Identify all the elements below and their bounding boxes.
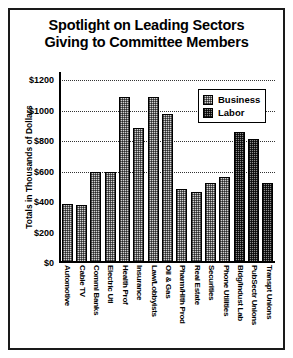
bar-slot [160,72,174,263]
chart-title-line-1: Spotlight on Leading Sectors [10,17,283,34]
x-label-slot: Law/Lobbyists [146,265,160,353]
x-label-slot: Oil & Gas [161,265,175,353]
x-axis-line [59,261,275,263]
bar-slot [132,72,146,263]
x-label-slot: Health Prof [118,265,132,353]
bar[interactable] [248,139,259,263]
x-axis-label: Automotive [63,265,72,306]
bar-slot [74,72,88,263]
x-axis-label: Pharm/Hlth Prod [178,265,187,324]
legend-swatch-business-icon [203,95,213,105]
x-label-slot: Real Estate [190,265,204,353]
x-axis-label: PubSectr Unions [250,265,259,325]
ytick-label-400: $400 [34,197,54,207]
x-label-slot: Cable TV [74,265,88,353]
ytick-label-600: $600 [34,167,54,177]
ytick-label-800: $800 [34,136,54,146]
ytick-label-1000: $1000 [29,106,54,116]
legend-item-labor: Labor [203,106,260,119]
x-label-slot: Bldg/Indust Lab [233,265,247,353]
x-label-slot: Automotive [60,265,74,353]
bar-slot [89,72,103,263]
x-label-slot: Insurance [132,265,146,353]
bar[interactable] [90,172,101,263]
bar-slot [175,72,189,263]
bar[interactable] [162,114,173,263]
y-axis-line [59,72,61,263]
x-label-slot: PubSectr Unions [247,265,261,353]
bar[interactable] [148,97,159,263]
legend-item-business: Business [203,93,260,106]
x-axis-category-labels: AutomotiveCable TVComml BanksElectric Ut… [60,265,276,353]
bar[interactable] [262,183,273,263]
bar-slot [146,72,160,263]
x-label-slot: Phone Utilities [218,265,232,353]
bar[interactable] [76,205,87,263]
legend-swatch-labor-icon [203,108,213,118]
ytick-label-1200: $1200 [29,75,54,85]
x-axis-label: Cable TV [77,265,86,297]
ytick-label-0: $0 [44,258,54,268]
x-axis-label: Comml Banks [92,265,101,315]
x-axis-label: Electric Utl [106,265,115,303]
chart-legend: Business Labor [198,89,266,123]
bar[interactable] [191,192,202,263]
chart-title: Spotlight on Leading Sectors Giving to C… [10,17,283,51]
ytick-label-200: $200 [34,228,54,238]
x-label-slot: Electric Utl [103,265,117,353]
x-label-slot: Transpt Unions [262,265,276,353]
bar[interactable] [219,177,230,263]
chart-title-line-2: Giving to Committee Members [10,34,283,51]
bar[interactable] [62,204,73,263]
bar-slot [60,72,74,263]
legend-label-business: Business [218,94,260,105]
bar-slot [117,72,131,263]
x-axis-label: Insurance [135,265,144,300]
bar[interactable] [234,132,245,263]
x-axis-label: Law/Lobbyists [149,265,158,317]
x-label-slot: Securities [204,265,218,353]
x-axis-label: Transpt Unions [264,265,273,319]
bar[interactable] [205,183,216,263]
x-axis-label: Real Estate [192,265,201,305]
bar[interactable] [176,189,187,263]
x-axis-label: Securities [207,265,216,300]
x-axis-label: Oil & Gas [164,265,173,298]
x-label-slot: Pharm/Hlth Prod [175,265,189,353]
x-label-slot: Comml Banks [89,265,103,353]
x-axis-label: Bldg/Indust Lab [236,265,245,321]
bar[interactable] [105,172,116,264]
chart-container: Spotlight on Leading Sectors Giving to C… [8,8,285,350]
x-axis-label: Phone Utilities [221,265,230,316]
bar[interactable] [133,128,144,263]
bar-slot [103,72,117,263]
x-axis-label: Health Prof [120,265,129,304]
legend-label-labor: Labor [218,107,244,118]
bar[interactable] [119,97,130,263]
